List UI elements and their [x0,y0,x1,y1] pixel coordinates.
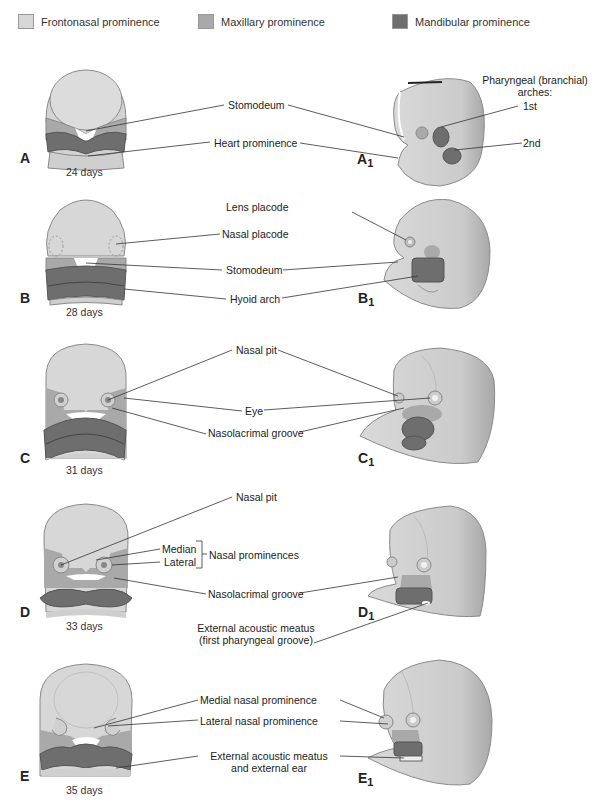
panel-letter-e: E [20,768,29,784]
label-nasolacrimal-groove-c: Nasolacrimal groove [208,427,304,439]
age-label-d: 33 days [66,620,103,632]
label-lateral: Lateral [164,556,196,568]
age-label-e: 35 days [66,784,103,796]
label-nasal-pit-c: Nasal pit [236,344,277,356]
panel-letter-b1: B1 [358,290,374,308]
label-stomodeum-a: Stomodeum [228,99,285,111]
age-label-b: 28 days [66,306,103,318]
label-lens-placode: Lens placode [226,201,288,213]
label-hyoid-arch: Hyoid arch [230,293,280,305]
embryo-face-development-illustration [0,0,599,803]
panel-c-lateral [360,348,495,464]
label-pharyngeal-line2: arches: [480,86,590,98]
label-nasal-prominences: Nasal prominences [209,549,299,561]
panel-e-frontal [40,664,132,776]
label-eam-e-line2: and external ear [198,762,340,774]
panel-letter-a: A [20,150,30,166]
label-external-acoustic-meatus-d: External acoustic meatus (first pharynge… [196,622,316,646]
label-eam-line2: (first pharyngeal groove) [196,634,316,646]
label-medial-nasal-prominence: Medial nasal prominence [200,694,317,706]
panel-b-frontal [46,200,126,305]
panel-letter-c: C [20,450,30,466]
panel-b-lateral [384,199,490,308]
label-2nd-arch: 2nd [523,137,541,149]
panel-d-frontal [40,504,132,618]
label-eam-e-line1: External acoustic meatus [198,750,340,762]
age-label-a: 24 days [66,166,103,178]
panel-letter-c1: C1 [358,450,374,468]
label-eam-line1: External acoustic meatus [196,622,316,634]
panel-c-frontal [44,344,126,460]
label-heart-prominence: Heart prominence [214,137,297,149]
panel-a-frontal [46,70,126,170]
panel-letter-a1: A1 [357,151,373,169]
label-pharyngeal-arches: Pharyngeal (branchial) arches: [480,74,590,98]
label-nasal-pit-d: Nasal pit [236,491,277,503]
panel-d-lateral [368,506,486,617]
label-lateral-nasal-prominence: Lateral nasal prominence [200,715,318,727]
label-nasolacrimal-groove-d: Nasolacrimal groove [208,588,304,600]
panel-e-lateral [368,660,492,785]
label-1st-arch: 1st [523,100,537,112]
label-external-acoustic-meatus-e: External acoustic meatus and external ea… [198,750,340,774]
panel-letter-d1: D1 [358,604,374,622]
label-stomodeum-b: Stomodeum [226,264,283,276]
label-pharyngeal-line1: Pharyngeal (branchial) [480,74,590,86]
label-eye: Eye [245,405,263,417]
label-median: Median [162,543,196,555]
age-label-c: 31 days [66,464,103,476]
panel-letter-e1: E1 [358,770,373,788]
label-nasal-placode: Nasal placode [222,228,289,240]
panel-letter-b: B [20,290,30,306]
panel-a-lateral [394,79,485,186]
panel-letter-d: D [20,604,30,620]
